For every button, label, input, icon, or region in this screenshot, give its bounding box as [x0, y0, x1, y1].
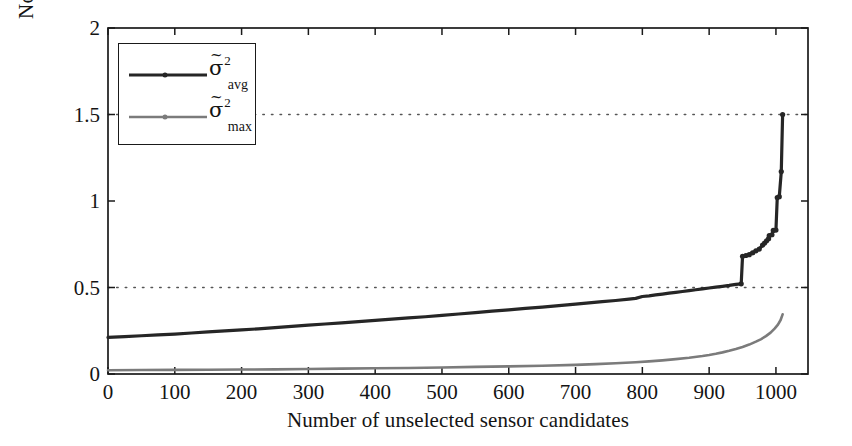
legend-item-avg: ~σ2avg: [119, 54, 257, 94]
sigma-glyph-avg: ~σ: [209, 58, 223, 79]
data-point-marker: [779, 169, 784, 174]
data-point-marker: [777, 194, 782, 199]
legend-label-max: ~σ2max: [209, 98, 254, 121]
data-point-marker: [757, 246, 762, 251]
legend-swatch-max: [129, 115, 207, 118]
tilde-accent-avg: ~: [210, 48, 223, 63]
sigma-glyph-max: ~σ: [209, 100, 223, 121]
legend-label-avg: ~σ2avg: [209, 56, 250, 79]
legend-line-max: [129, 115, 207, 119]
superscript-max: 2: [224, 95, 231, 110]
data-point-marker: [773, 227, 778, 232]
legend-line-avg: [129, 73, 207, 77]
series-line-sigma_tilde_sq_avg: [108, 115, 783, 338]
subscript-avg: avg: [228, 78, 248, 92]
data-point-marker: [780, 112, 785, 117]
series-line-sigma_tilde_sq_max: [108, 314, 783, 370]
figure-container: Normalised estimation errors 00.511.52 0…: [0, 0, 852, 446]
legend-marker-avg: [163, 72, 168, 77]
legend-item-max: ~σ2max: [119, 96, 257, 136]
legend-marker-max: [163, 114, 168, 119]
legend-swatch-avg: [129, 73, 207, 76]
data-point-marker: [739, 281, 744, 286]
subscript-max: max: [228, 120, 252, 134]
legend: ~σ2avg ~σ2max: [118, 43, 256, 145]
superscript-avg: 2: [224, 53, 231, 68]
tilde-accent-max: ~: [210, 90, 223, 105]
